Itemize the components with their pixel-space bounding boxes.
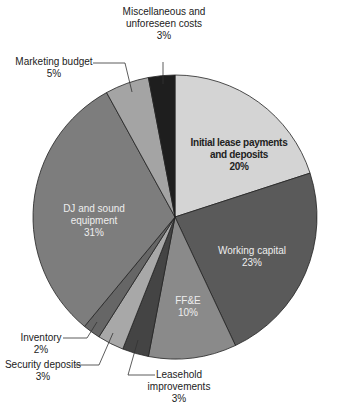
label-marketing-line1: Marketing budget [15, 56, 92, 68]
label-misc-line1: Miscellaneous and [123, 6, 206, 18]
label-ffe: FF&E 10% [175, 295, 201, 319]
label-lease-line2: and deposits [191, 149, 288, 161]
label-dj-line1: DJ and sound [63, 203, 125, 215]
label-working-pct: 23% [218, 257, 286, 269]
label-lease-pct: 20% [191, 161, 288, 173]
label-working: Working capital 23% [218, 245, 286, 269]
label-inventory-pct: 2% [20, 344, 61, 356]
label-leasehold-pct: 3% [148, 393, 211, 405]
label-misc-pct: 3% [123, 30, 206, 42]
label-misc: Miscellaneous and unforeseen costs 3% [123, 6, 206, 42]
label-dj-pct: 31% [63, 227, 125, 239]
label-lease-line1: Initial lease payments [191, 137, 288, 149]
label-dj: DJ and sound equipment 31% [63, 203, 125, 239]
label-leasehold-line1: Leasehold [148, 369, 211, 381]
label-marketing: Marketing budget 5% [15, 56, 92, 80]
label-marketing-pct: 5% [15, 68, 92, 80]
label-leasehold-line2: improvements [148, 381, 211, 393]
label-security: Security deposits 3% [5, 359, 81, 383]
label-leasehold: Leasehold improvements 3% [148, 369, 211, 405]
label-misc-line2: unforeseen costs [123, 18, 206, 30]
label-security-pct: 3% [5, 371, 81, 383]
label-security-line1: Security deposits [5, 359, 81, 371]
label-lease: Initial lease payments and deposits 20% [191, 137, 288, 173]
label-ffe-line1: FF&E [175, 295, 201, 307]
label-dj-line2: equipment [63, 215, 125, 227]
label-inventory: Inventory 2% [20, 332, 61, 356]
label-working-line1: Working capital [218, 245, 286, 257]
label-ffe-pct: 10% [175, 307, 201, 319]
label-inventory-line1: Inventory [20, 332, 61, 344]
